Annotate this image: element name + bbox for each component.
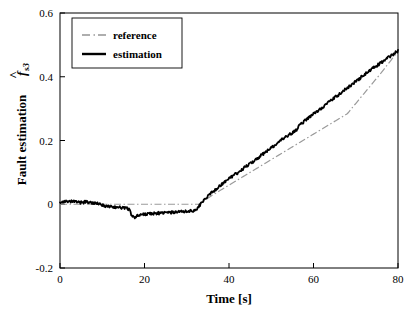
x-tick-label-3: 60 — [308, 273, 320, 285]
legend-label-reference: reference — [113, 29, 157, 41]
legend-box — [72, 18, 182, 68]
y-tick-label-1: 0 — [48, 198, 54, 210]
x-axis-title: Time [s] — [206, 291, 252, 306]
x-tick-label-1: 20 — [139, 273, 151, 285]
chart-legend: reference estimation — [72, 18, 182, 68]
y-axis-symbol-subscript: s3 — [21, 62, 31, 72]
x-tick-label-4: 80 — [393, 273, 405, 285]
x-tick-label-0: 0 — [57, 273, 63, 285]
y-axis-symbol-hat-icon: ^ — [6, 71, 21, 78]
figure-container: -0.200.20.40.6 020406080 Time [s] Fault … — [0, 0, 412, 322]
y-axis-title-text: Fault estimation — [14, 94, 29, 185]
y-tick-label-2: 0.2 — [39, 135, 53, 147]
y-tick-label-0: -0.2 — [36, 262, 53, 274]
x-tick-label-2: 40 — [224, 273, 236, 285]
y-tick-label-4: 0.6 — [39, 7, 53, 19]
y-tick-label-3: 0.4 — [39, 71, 53, 83]
chart-canvas: -0.200.20.40.6 020406080 Time [s] Fault … — [0, 0, 412, 322]
legend-label-estimation: estimation — [113, 48, 162, 60]
